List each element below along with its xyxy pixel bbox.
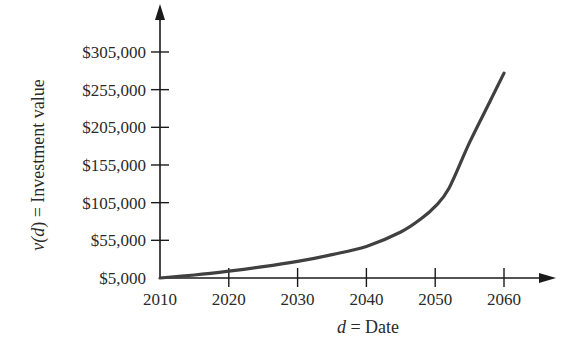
x-tick-label: 2030 [281,290,315,309]
investment-curve [160,73,504,278]
y-axis-title-v: v( [28,236,49,251]
y-tick-label: $255,000 [82,81,146,100]
y-ticks: $5,000$55,000$105,000$155,000$205,000$25… [82,43,169,288]
chart-canvas: $5,000$55,000$105,000$155,000$205,000$25… [0,0,574,358]
y-tick-label: $205,000 [82,118,146,137]
y-axis: $5,000$55,000$105,000$155,000$205,000$25… [82,4,169,288]
x-tick-label: 2060 [487,290,521,309]
x-tick-label: 2010 [143,290,177,309]
y-axis-title: v(d) = Investment value [28,79,49,251]
y-axis-title-text: = Investment value [28,79,48,222]
y-tick-label: $5,000 [99,269,146,288]
y-tick-label: $155,000 [82,156,146,175]
x-tick-label: 2020 [212,290,246,309]
x-axis-arrow-icon [539,273,556,283]
x-tick-label: 2050 [418,290,452,309]
y-tick-label: $105,000 [82,194,146,213]
x-tick-label: 2040 [349,290,383,309]
x-axis-title: d = Date [337,317,399,337]
y-tick-label: $305,000 [82,43,146,62]
investment-value-chart: $5,000$55,000$105,000$155,000$205,000$25… [0,0,574,358]
y-axis-arrow-icon [155,4,165,20]
x-axis-title-text: = Date [346,317,399,337]
y-tick-label: $55,000 [91,231,146,250]
